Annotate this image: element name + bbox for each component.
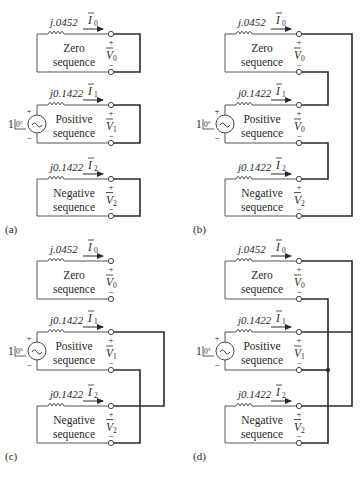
impedance-label: j0.1422 <box>48 314 84 326</box>
ac-source-icon <box>216 115 234 133</box>
inductor-icon <box>48 259 108 262</box>
network-name: Positive <box>55 340 92 352</box>
network-name: Zero <box>251 269 273 281</box>
source-angle: 0° <box>16 347 23 356</box>
panel-c: j.0452I0+−V0Zerosequence+−10°j0.1422I1+−… <box>5 240 164 463</box>
connection-wire <box>114 179 140 216</box>
terminal-minus <box>108 140 113 145</box>
current-subscript: 1 <box>94 90 98 99</box>
terminal-plus <box>108 176 113 181</box>
terminal-plus <box>108 258 113 263</box>
inductor-icon <box>236 177 296 180</box>
impedance-label: j0.1422 <box>236 161 272 173</box>
voltage-subscript: 1 <box>113 352 117 361</box>
network-name-line2: sequence <box>53 201 95 214</box>
impedance-label: j0.1422 <box>236 314 272 326</box>
current-subscript: 1 <box>94 317 98 326</box>
network-name: Positive <box>55 113 92 125</box>
wire <box>225 105 236 115</box>
network-name-line2: sequence <box>53 428 95 441</box>
inductor-icon <box>236 103 296 106</box>
voltage-subscript: 0 <box>301 281 305 290</box>
terminal-plus <box>296 176 301 181</box>
terminal-minus <box>108 69 113 74</box>
network-name-line2: sequence <box>241 354 283 367</box>
current-label: I <box>87 386 93 398</box>
wire <box>37 332 48 342</box>
current-label: I <box>275 85 281 97</box>
sequence-network-diagram: j.0452I0+−V0Zerosequence+−10°j0.1422I1+−… <box>0 0 362 484</box>
inductor-icon <box>236 404 296 407</box>
network-negative: j0.1422I2+−V2Negativesequence <box>225 158 305 219</box>
terminal-plus-sign: + <box>108 264 113 274</box>
source-angle: 0° <box>204 347 211 356</box>
voltage-subscript: 1 <box>113 125 117 134</box>
connection-wire <box>302 34 352 216</box>
terminal-plus-sign: + <box>108 182 113 192</box>
current-label: I <box>275 159 281 171</box>
impedance-label: j.0452 <box>236 243 266 255</box>
current-subscript: 0 <box>94 246 98 255</box>
source-minus-sign: − <box>214 360 219 370</box>
terminal-plus-sign: + <box>108 37 113 47</box>
source-magnitude: 1 <box>196 118 202 130</box>
wire <box>225 332 236 342</box>
network-negative: j0.1422I2+−V2Negativesequence <box>37 385 117 446</box>
network-zero: j.0452I0+−V0Zerosequence <box>225 240 305 302</box>
panel-caption: (b) <box>193 223 206 236</box>
voltage-subscript: 0 <box>113 54 117 63</box>
network-name: Positive <box>243 340 280 352</box>
current-subscript: 0 <box>282 246 286 255</box>
current-label: I <box>87 85 93 97</box>
terminal-minus <box>296 213 301 218</box>
terminal-minus <box>296 140 301 145</box>
source-plus-sign: + <box>26 333 31 343</box>
connection-wire <box>114 34 140 72</box>
current-label: I <box>87 312 93 324</box>
voltage-subscript: 2 <box>301 199 305 208</box>
network-positive: +−10°j0.1422I1+−V1Positivesequence <box>196 311 305 373</box>
current-subscript: 2 <box>282 164 286 173</box>
inductor-icon <box>236 259 296 262</box>
network-negative: j0.1422I2+−V2Negativesequence <box>37 158 117 219</box>
network-name-line2: sequence <box>241 283 283 296</box>
terminal-plus <box>296 329 301 334</box>
network-positive: +−10°j0.1422I1+−V1Positivesequence <box>8 311 117 373</box>
voltage-subscript: 0 <box>113 281 117 290</box>
panel-d: j.0452I0+−V0Zerosequence+−10°j0.1422I1+−… <box>193 240 352 463</box>
connection-wire <box>302 143 328 179</box>
panel-caption: (a) <box>5 223 18 236</box>
terminal-plus-sign: + <box>296 37 301 47</box>
terminal-minus <box>108 296 113 301</box>
wire <box>37 105 48 115</box>
terminal-minus <box>108 213 113 218</box>
network-name-line2: sequence <box>241 127 283 140</box>
terminal-plus <box>296 31 301 36</box>
impedance-label: j0.1422 <box>236 388 272 400</box>
terminal-minus <box>296 367 301 372</box>
current-subscript: 2 <box>282 391 286 400</box>
terminal-plus <box>296 102 301 107</box>
network-name-line2: sequence <box>241 201 283 214</box>
current-label: I <box>87 159 93 171</box>
connection-wire <box>114 332 164 406</box>
ac-source-icon <box>216 342 234 360</box>
inductor-icon <box>48 404 108 407</box>
current-subscript: 1 <box>282 317 286 326</box>
voltage-subscript: 2 <box>113 199 117 208</box>
junction-dot <box>326 368 330 372</box>
network-name-line2: sequence <box>241 428 283 441</box>
current-subscript: 0 <box>282 19 286 28</box>
current-subscript: 0 <box>94 19 98 28</box>
network-name-line2: sequence <box>53 283 95 296</box>
source-plus-sign: + <box>26 106 31 116</box>
inductor-icon <box>48 177 108 180</box>
connection-wire <box>114 105 140 143</box>
inductor-icon <box>48 330 108 333</box>
inductor-icon <box>236 32 296 35</box>
network-name: Negative <box>53 414 95 427</box>
inductor-icon <box>48 32 108 35</box>
terminal-plus <box>108 403 113 408</box>
terminal-plus <box>108 329 113 334</box>
ac-source-icon <box>28 342 46 360</box>
